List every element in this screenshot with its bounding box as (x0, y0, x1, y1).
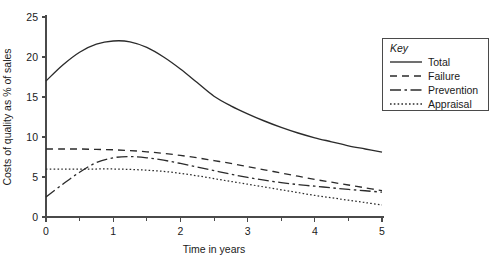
legend-label-appraisal: Appraisal (428, 98, 472, 110)
x-tick-label: 1 (110, 225, 116, 237)
y-axis-title: Costs of quality as % of sales (1, 48, 13, 185)
line-chart-canvas: 0510152025 012345 Time in years Costs of… (0, 0, 494, 259)
legend-label-total: Total (428, 56, 450, 68)
x-tick-label: 2 (177, 225, 183, 237)
series-line-prevention (46, 157, 382, 197)
series-line-appraisal (46, 169, 382, 205)
legend-title: Key (390, 42, 409, 54)
x-axis-tick-labels: 012345 (43, 225, 385, 237)
y-tick-label: 5 (32, 171, 38, 183)
chart-figure: 0510152025 012345 Time in years Costs of… (0, 0, 494, 259)
y-tick-label: 20 (26, 51, 38, 63)
y-tick-label: 10 (26, 131, 38, 143)
series-group (46, 41, 382, 205)
y-tick-label: 15 (26, 91, 38, 103)
x-tick-label: 3 (245, 225, 251, 237)
legend: Key TotalFailurePreventionAppraisal (382, 38, 488, 110)
series-line-total (46, 41, 382, 152)
y-tick-label: 0 (32, 211, 38, 223)
y-axis-tick-labels: 0510152025 (26, 11, 38, 223)
x-tick-label: 0 (43, 225, 49, 237)
x-axis-ticks (46, 217, 382, 222)
x-axis-title: Time in years (183, 243, 246, 255)
axes-group: 0510152025 012345 (26, 11, 385, 237)
series-line-failure (46, 149, 382, 191)
x-tick-label: 4 (312, 225, 318, 237)
x-tick-label: 5 (379, 225, 385, 237)
legend-label-prevention: Prevention (428, 84, 478, 96)
y-tick-label: 25 (26, 11, 38, 23)
legend-label-failure: Failure (428, 70, 460, 82)
